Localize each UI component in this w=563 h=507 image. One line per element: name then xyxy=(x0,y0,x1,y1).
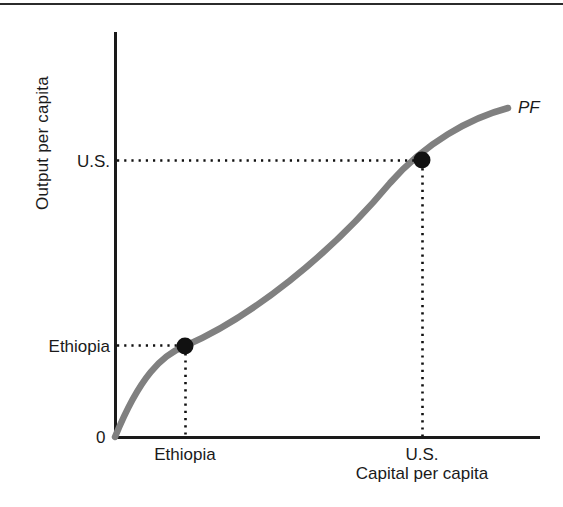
x-tick-label-us: U.S. xyxy=(405,446,438,463)
origin-label: 0 xyxy=(96,429,105,446)
y-tick-label-us: U.S. xyxy=(10,153,110,170)
plot-area xyxy=(0,0,563,507)
data-point-us xyxy=(414,152,431,169)
production-function-figure: Output per capita U.S. Ethiopia 0 Ethiop… xyxy=(0,0,563,507)
x-axis-title: Capital per capita xyxy=(356,465,488,482)
y-tick-label-ethiopia: Ethiopia xyxy=(0,338,110,355)
production-function-curve xyxy=(115,108,508,437)
curve-label-pf: PF xyxy=(518,99,540,116)
x-tick-label-ethiopia: Ethiopia xyxy=(154,446,215,463)
data-point-ethiopia xyxy=(177,338,194,355)
y-axis-title: Output per capita xyxy=(34,76,51,210)
